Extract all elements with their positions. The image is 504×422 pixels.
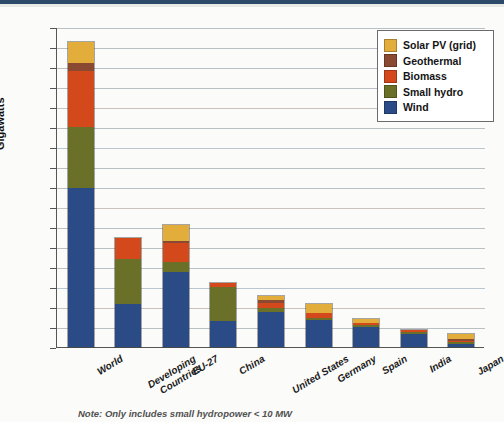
- bar-segment-biomass: [68, 71, 94, 127]
- x-axis-label-line: World: [95, 353, 125, 377]
- top-rule-light: [0, 4, 504, 7]
- bar-united-states: [258, 296, 284, 347]
- bar-segment-biomass: [115, 238, 141, 259]
- bar-segment-solar-pv-grid-: [68, 42, 94, 63]
- bar-germany: [306, 304, 332, 347]
- legend-swatch: [384, 54, 397, 67]
- legend-label: Biomass: [403, 70, 447, 82]
- bar-segment-wind: [68, 188, 94, 347]
- legend-item-geothermal: Geothermal: [384, 54, 488, 67]
- bar-segment-wind: [448, 344, 474, 347]
- x-axis-label-spain: Spain: [380, 353, 409, 376]
- bar-segment-small-hydro: [115, 259, 141, 304]
- legend-swatch: [384, 39, 397, 52]
- bar-segment-geothermal: [68, 63, 94, 71]
- bar-segment-wind: [306, 320, 332, 347]
- legend-item-biomass: Biomass: [384, 70, 488, 83]
- gridline: [57, 228, 485, 229]
- bar-segment-wind: [115, 304, 141, 347]
- bar-segment-solar-pv-grid-: [163, 225, 189, 241]
- gridline: [57, 188, 485, 189]
- gridline: [57, 128, 485, 129]
- bar-china: [210, 283, 236, 347]
- bar-segment-wind: [353, 327, 379, 347]
- chart-note: Note: Only includes small hydropower < 1…: [78, 408, 292, 419]
- y-axis-label: Gigawatts: [0, 97, 6, 150]
- x-axis-label-line: Spain: [380, 353, 409, 376]
- y-axis-tick-mark: [50, 348, 56, 349]
- bar-segment-biomass: [163, 243, 189, 262]
- gridline: [57, 28, 485, 29]
- bar-developing-countries: [115, 238, 141, 347]
- bar-segment-wind: [210, 321, 236, 347]
- legend-label: Geothermal: [403, 55, 461, 67]
- x-axis-label-india: India: [427, 353, 453, 374]
- bar-segment-wind: [163, 272, 189, 347]
- x-axis-label-line: Japan: [475, 353, 504, 377]
- bar-segment-wind: [401, 334, 427, 347]
- bar-world: [68, 42, 94, 347]
- legend-label: Wind: [403, 101, 429, 113]
- bar-spain: [353, 319, 379, 347]
- legend-label: Solar PV (grid): [403, 39, 476, 51]
- chart-page: Gigawatts 020406080100120140160180200220…: [0, 0, 504, 422]
- x-axis-label-china: China: [237, 353, 266, 377]
- legend-swatch: [384, 70, 397, 83]
- gridline: [57, 168, 485, 169]
- bar-segment-small-hydro: [210, 287, 236, 321]
- legend-item-solar-pv-grid-: Solar PV (grid): [384, 39, 488, 52]
- bar-japan: [448, 334, 474, 347]
- legend-item-wind: Wind: [384, 101, 488, 114]
- gridline: [57, 208, 485, 209]
- x-axis-label-line: China: [237, 353, 266, 377]
- bar-segment-wind: [258, 312, 284, 347]
- gridline: [57, 148, 485, 149]
- x-axis-label-world: World: [95, 353, 125, 377]
- bar-segment-small-hydro: [68, 127, 94, 188]
- bar-eu-27: [163, 225, 189, 347]
- legend-item-small-hydro: Small hydro: [384, 85, 488, 98]
- bar-segment-small-hydro: [163, 262, 189, 272]
- bar-segment-solar-pv-grid-: [306, 304, 332, 313]
- legend-swatch: [384, 101, 397, 114]
- chart-legend: Solar PV (grid)GeothermalBiomassSmall hy…: [377, 30, 494, 122]
- x-axis-label-line: India: [427, 353, 453, 374]
- x-axis-label-japan: Japan: [475, 353, 504, 377]
- legend-swatch: [384, 85, 397, 98]
- bar-india: [401, 330, 427, 347]
- legend-label: Small hydro: [403, 86, 463, 98]
